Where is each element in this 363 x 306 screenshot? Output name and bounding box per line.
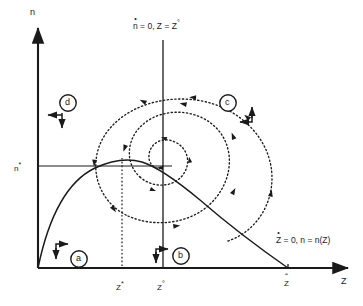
z-dot-var: Z [276, 236, 281, 245]
spiral-arrow-11 [121, 144, 128, 152]
spiral-loop-3 [140, 140, 188, 185]
axis-group [38, 28, 348, 268]
spiral-arrow-8 [230, 187, 238, 195]
region-a-arrow [56, 244, 68, 259]
region-b-arrow [156, 249, 168, 263]
x-tick-z-hat-main: Z [284, 280, 289, 288]
n-dot-var: n [133, 22, 138, 31]
x-tick-z-star: Z* [116, 280, 124, 292]
n-dot-nullcline-label: n = 0, Z = Z° [133, 19, 180, 30]
n-dot-sup: ° [177, 19, 180, 26]
region-d-arrow [48, 113, 62, 128]
z-dot-rest: = 0, n = n(Z) [281, 235, 330, 245]
x-tick-z-hat: Z [284, 280, 289, 288]
spiral-arrow-4 [139, 98, 147, 105]
x-axis-label: Z [341, 277, 347, 286]
z-dot-nullcline-label: Z = 0, n = n(Z) [276, 236, 330, 245]
region-c-arrow [240, 107, 252, 122]
y-tick-n-star: n* [14, 161, 21, 173]
y-axis-label: n [30, 8, 35, 17]
spiral-arrow-10 [179, 101, 187, 107]
spiral-arrow-9 [229, 132, 236, 140]
region-d-label: d [65, 98, 70, 107]
spiral-arrow-2 [243, 113, 251, 121]
x-tick-z-circ: Z° [157, 280, 165, 292]
spiral-arrowheads [92, 95, 275, 229]
spiral-arrow-7 [173, 223, 181, 229]
phase-plane-figure: n Z n* Z* Z° Z n = 0, Z = Z° Z = 0, n = … [0, 0, 363, 306]
region-a-label: a [76, 254, 81, 263]
spiral-arrow-12 [150, 187, 157, 193]
diagram-canvas [0, 0, 363, 306]
x-tick-z-star-sup: * [121, 280, 124, 287]
x-tick-z-circ-sup: ° [162, 280, 165, 287]
spiral-loop-2 [128, 112, 229, 223]
region-b-label: b [178, 251, 183, 260]
y-tick-n-star-sup: * [18, 161, 21, 168]
region-c-label: c [225, 98, 230, 107]
n-dot-rest: = 0, Z = Z [138, 21, 177, 31]
